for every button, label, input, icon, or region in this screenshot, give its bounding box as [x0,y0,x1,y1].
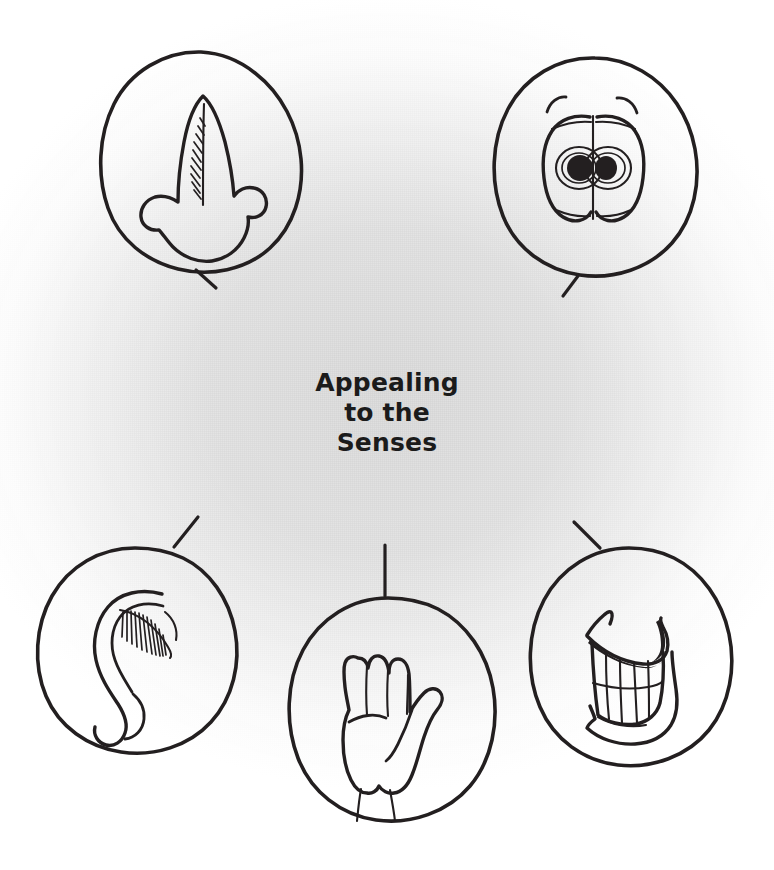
bubble-tail [574,522,600,548]
eyebrow-right [617,98,637,113]
teeth-row-outline [592,644,663,725]
bubble-outline [38,548,237,753]
figure-mouth-taste [512,512,747,782]
hand-drawing [272,538,507,838]
teeth-midline [593,681,663,688]
ear-antihelix [125,694,144,739]
bubble-outline [530,548,731,766]
ear-concha-line [165,612,177,640]
upper-lip [587,612,612,635]
figure-eyes-sight [478,44,713,299]
mouth-drawing [512,512,747,782]
bubble-tail [563,276,578,296]
finger-line-3 [407,675,408,714]
nose-drawing [88,42,318,292]
bubble-outline [289,598,495,821]
pupil-right [595,156,617,180]
illustration-page: Appealing to the Senses [0,0,774,870]
figure-nose-smell [88,42,318,292]
caption-line-2: to the [237,398,537,428]
center-caption: Appealing to the Senses [237,368,537,458]
pupil-left [567,155,593,181]
hand-outline [343,656,442,793]
nose-bridge-line [203,104,204,205]
eyebrow-left [547,97,566,112]
caption-line-1: Appealing [237,368,537,398]
figure-ear-hearing [22,512,257,767]
caption-line-3: Senses [237,428,537,458]
smile-upper-edge [587,618,668,664]
thumb-crease [386,710,412,761]
ear-drawing [22,512,257,767]
figure-hand-touch [272,538,507,838]
bubble-tail [174,517,198,547]
finger-line-2 [387,671,388,716]
palm-crease [349,715,386,722]
finger-line-1 [366,666,367,715]
eyes-drawing [478,44,713,299]
ear-helix-outline [95,592,163,746]
